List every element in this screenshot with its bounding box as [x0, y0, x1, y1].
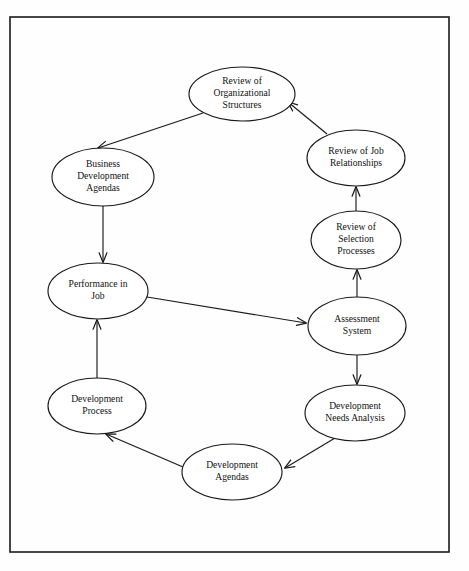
edge-org-structures-to-business-agendas — [98, 113, 203, 148]
edge-job-relationships-to-org-structures — [288, 102, 327, 134]
node-label-review-selection-processes: Review ofSelectionProcesses — [336, 221, 377, 257]
edge-performance-to-assessment — [147, 297, 306, 323]
node-assessment-system[interactable]: AssessmentSystem — [308, 297, 406, 355]
node-development-process[interactable]: DevelopmentProcess — [48, 378, 146, 434]
node-review-organizational-structures[interactable]: Review ofOrganizationalStructures — [189, 67, 295, 121]
diagram-page: Review ofOrganizationalStructuresBusines… — [0, 0, 469, 571]
node-review-job-relationships[interactable]: Review of JobRelationships — [307, 130, 405, 186]
node-business-development-agendas[interactable]: BusinessDevelopmentAgendas — [52, 148, 154, 206]
node-review-selection-processes[interactable]: Review ofSelectionProcesses — [311, 211, 401, 269]
node-performance-in-job[interactable]: Performance inJob — [48, 263, 148, 319]
node-label-development-needs-analysis: DevelopmentNeeds Analysis — [325, 400, 385, 423]
node-label-review-job-relationships: Review of JobRelationships — [328, 145, 384, 168]
nodes-layer: Review ofOrganizationalStructuresBusines… — [48, 67, 406, 500]
organizational-development-cycle-diagram: Review ofOrganizationalStructuresBusines… — [0, 0, 469, 571]
edge-needs-analysis-to-dev-agendas — [285, 438, 335, 468]
edge-dev-agendas-to-dev-process — [106, 434, 183, 467]
node-development-needs-analysis[interactable]: DevelopmentNeeds Analysis — [305, 385, 405, 441]
node-development-agendas[interactable]: DevelopmentAgendas — [182, 444, 282, 500]
